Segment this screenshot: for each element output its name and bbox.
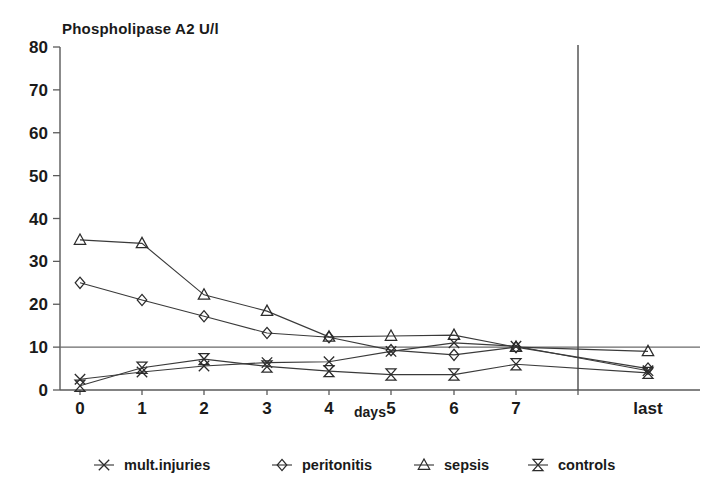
marker-triangle — [198, 289, 209, 299]
x-tick-label: 4 — [324, 399, 334, 418]
legend-item-mult-injuries[interactable]: mult.injuries — [94, 457, 210, 473]
marker-triangle — [448, 329, 459, 339]
marker-triangle — [385, 330, 396, 340]
legend-label: sepsis — [444, 457, 489, 473]
chart-legend: mult.injuriesperitonitissepsiscontrols — [94, 457, 615, 473]
legend-item-peritonitis[interactable]: peritonitis — [272, 457, 372, 473]
phospholipase-a2-line-chart: Phospholipase A2 U/l 01020304050607080 0… — [0, 0, 713, 498]
chart-axes — [53, 47, 700, 395]
y-tick-label: 0 — [39, 381, 48, 400]
x-tick-label: 7 — [511, 399, 520, 418]
series-polyline — [80, 359, 648, 386]
legend-item-controls[interactable]: controls — [528, 457, 615, 473]
chart-container: Phospholipase A2 U/l 01020304050607080 0… — [0, 0, 713, 498]
y-tick-label: 50 — [29, 167, 48, 186]
legend-label: controls — [558, 457, 615, 473]
series-sepsis — [74, 234, 653, 356]
x-tick-label: 2 — [199, 399, 208, 418]
x-tick-label: 1 — [137, 399, 146, 418]
legend-item-sepsis[interactable]: sepsis — [414, 457, 489, 473]
x-tick-label: 3 — [262, 399, 271, 418]
marker-triangle — [74, 234, 85, 244]
chart-title: Phospholipase A2 U/l — [62, 20, 219, 37]
y-tick-label: 10 — [29, 338, 48, 357]
series-controls — [75, 354, 653, 392]
data-series-group — [74, 234, 653, 391]
series-polyline — [80, 240, 648, 351]
legend-label: peritonitis — [302, 457, 372, 473]
y-axis-tick-labels: 01020304050607080 — [29, 38, 48, 400]
y-tick-label: 80 — [29, 38, 48, 57]
x-axis-label: days — [354, 404, 386, 420]
y-tick-label: 70 — [29, 81, 48, 100]
marker-triangle — [418, 459, 429, 469]
series-peritonitis — [75, 277, 653, 374]
y-tick-label: 30 — [29, 252, 48, 271]
y-tick-label: 20 — [29, 295, 48, 314]
x-tick-label: last — [633, 399, 663, 418]
x-tick-label: 6 — [449, 399, 458, 418]
legend-label: mult.injuries — [124, 457, 210, 473]
y-tick-label: 40 — [29, 210, 48, 229]
y-tick-label: 60 — [29, 124, 48, 143]
x-tick-label: 5 — [386, 399, 395, 418]
x-tick-label: 0 — [75, 399, 84, 418]
